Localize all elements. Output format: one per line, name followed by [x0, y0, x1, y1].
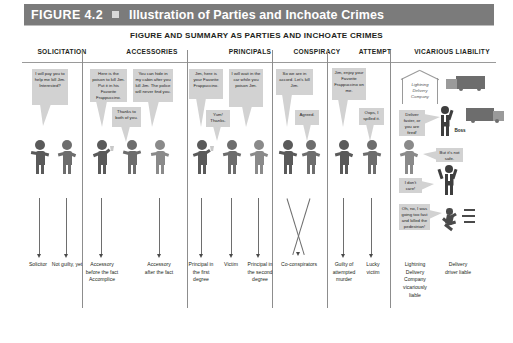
figure-page: FIGURE 4.2 Illustration of Parties and I… — [0, 0, 513, 343]
company-building-icon: Lightning Delivery Company — [401, 70, 439, 104]
bubble-boss-dontcare: I don't care! — [399, 178, 422, 193]
bubble-tail-principal-second — [242, 106, 255, 127]
arrow-victim — [231, 198, 232, 256]
column-divider-5 — [390, 50, 391, 308]
figure-number: FIGURE 4.2 — [31, 8, 103, 22]
figure-title: Illustration of Parties and Inchoate Cri… — [129, 8, 384, 22]
title-divider — [24, 25, 494, 26]
bubble-tail-victim-yum — [213, 126, 224, 141]
arrow-principal-first — [201, 198, 202, 256]
arrowhead-co-conspirators — [296, 252, 300, 256]
bubble-conspiracy-accord: So we are in accord. Let's kill Jim. — [276, 69, 313, 95]
arrow-solicitor — [39, 198, 40, 256]
outcome-victim: Victim — [219, 261, 243, 269]
bubble-principal-first: Jim, here is your Favorite Frappuccino. — [189, 69, 223, 99]
arrowhead-solicitor — [37, 254, 41, 258]
bubble-thanks-both: Thanks to both of you. — [112, 107, 141, 127]
column-header-vicarious-liability: VICARIOUS LIABILITY — [408, 48, 496, 55]
bubble-boss-order: Deliver faster, or you are fired! — [399, 110, 425, 136]
figure-accessory-after — [150, 140, 170, 174]
outcome-principal-first: Principal in the first degree — [186, 261, 216, 284]
figure-solicited-person — [57, 140, 77, 174]
outcome-not-guilty-yet: Not guilty, yet — [50, 261, 84, 269]
figure-conspirator-two — [301, 140, 321, 174]
arrow-accessory-before — [101, 198, 102, 256]
delivery-truck-icon-2 — [466, 108, 510, 128]
outcome-driver-liable: Delivery driver liable — [443, 261, 473, 276]
company-sign-text: Lightning Delivery Company — [404, 82, 436, 100]
figure-accessory-before — [92, 140, 112, 174]
bubble-tail-boss-dontcare — [421, 181, 434, 192]
arrowhead-principal-first — [199, 254, 203, 258]
bubble-attempt-spilled: Oops, I spilled it. — [359, 108, 384, 125]
figure-solicitor — [30, 140, 50, 174]
speed-line-2 — [462, 215, 475, 217]
boss-label: Boss — [450, 128, 470, 135]
arrow-not-guilty — [66, 198, 67, 256]
column-divider-1 — [82, 50, 83, 308]
column-header-conspiracy: CONSPIRACY — [290, 48, 344, 55]
bubble-solicitation-offer: I will pay you to help me kill Jim. Inte… — [32, 69, 68, 105]
square-bullet-icon — [112, 11, 119, 18]
bubble-driver-crash: Oh, no, I was going too fast and killed … — [399, 204, 430, 230]
speed-line-1 — [464, 209, 475, 211]
bubble-attempt-offer: Jim, enjoy your Favorite Frappuccino on … — [332, 68, 366, 100]
column-header-solicitation: SOLICITATION — [26, 48, 98, 55]
figure-title-bar: FIGURE 4.2 Illustration of Parties and I… — [24, 4, 494, 25]
figure-attempter — [334, 140, 354, 174]
arrowhead-principal-second — [256, 254, 260, 258]
bubble-tail-attempt-offer — [338, 99, 351, 127]
speed-line-3 — [464, 221, 475, 223]
arrowhead-not-guilty — [64, 254, 68, 258]
arrowhead-victim — [229, 254, 233, 258]
outcome-lucky-victim: Lucky victim — [361, 261, 385, 276]
figure-running-driver — [440, 208, 462, 232]
figure-delivery-driver — [399, 140, 419, 174]
column-divider-4 — [327, 50, 328, 308]
bubble-tail-conspiracy-agreed — [303, 124, 314, 141]
arrow-attempted-murder — [343, 198, 344, 256]
outcome-principal-second: Principal in the second degree — [245, 261, 275, 284]
arrowhead-attempted-murder — [341, 254, 345, 258]
arrowhead-accessory-after — [157, 254, 161, 258]
outcome-company-liable: Lightning Delivery Company vicariously l… — [398, 261, 432, 299]
column-header-principals: PRINCIPALS — [210, 48, 290, 55]
figure-conspirator-one — [278, 140, 298, 174]
bubble-accessory-before: Here is the poison to kill Jim. Put it i… — [90, 69, 127, 102]
figure-lucky-victim — [362, 140, 382, 174]
bubble-tail-conspiracy-accord — [282, 94, 295, 127]
arrow-accessory-after — [159, 198, 160, 256]
figure-principal-first — [192, 140, 212, 174]
outcome-attempted-murder: Guilty of attempted murder — [329, 261, 359, 284]
header-underline — [22, 62, 496, 63]
bubble-driver-unsafe: But it's not safe. — [436, 148, 463, 162]
arrow-principal-second — [258, 198, 259, 256]
figure-principal-second — [249, 140, 269, 174]
bubble-tail-accessory-before — [96, 101, 110, 127]
column-header-row: SOLICITATION ACCESSORIES PRINCIPALS CONS… — [22, 48, 496, 60]
bubble-tail-driver-unsafe — [423, 151, 437, 163]
bubble-accessory-after: You can hide in my cabin after you kill … — [133, 69, 173, 102]
column-header-attempt: ATTEMPT — [344, 48, 406, 55]
figure-victim — [222, 140, 242, 174]
arrow-lucky-victim — [371, 198, 372, 256]
bubble-tail-attempt-spilled — [366, 124, 377, 141]
bubble-principal-second: I will wait in the car while you poison … — [229, 69, 263, 107]
figure-subtitle: FIGURE AND SUMMARY AS PARTIES AND INCHOA… — [0, 31, 513, 40]
bubble-tail-solicitation — [40, 104, 54, 126]
arrowhead-accessory-before — [99, 254, 103, 258]
arrowhead-lucky-victim — [369, 254, 373, 258]
bubble-tail-accessory-after — [148, 101, 162, 127]
delivery-truck-icon-1 — [446, 76, 486, 96]
outcome-accessory-after: Accessory after the fact — [142, 261, 176, 276]
outcome-accessory-before: Accessory before the fact Accomplice — [84, 261, 120, 284]
bubble-victim-yum: Yum! Thanks. — [206, 110, 230, 127]
figure-boss-second — [440, 165, 458, 195]
bubble-conspiracy-agreed: Agreed. — [295, 110, 319, 125]
figure-accomplice — [122, 140, 142, 174]
outcome-co-conspirators: Co-conspirators — [277, 261, 321, 269]
